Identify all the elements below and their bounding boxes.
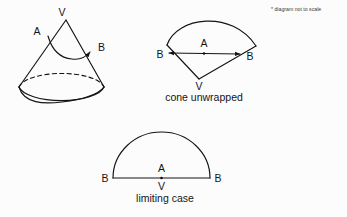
sector-point-a-dot <box>203 52 206 55</box>
cone-label-b: B <box>98 41 105 53</box>
limiting-label-b-right: B <box>214 172 221 184</box>
diagram-figure: V A B A B B V cone unwrapped <box>0 0 347 217</box>
sector-arc <box>167 21 256 46</box>
cone-base-front-arc <box>19 87 104 101</box>
caption-cone-unwrapped: cone unwrapped <box>165 91 243 103</box>
sector-label-a: A <box>200 37 207 49</box>
limiting-label-b-left: B <box>101 172 108 184</box>
diagram-canvas: V A B A B B V cone unwrapped <box>0 0 347 217</box>
sector-label-b-left: B <box>156 48 163 60</box>
diagram-scale-note: * diagram not to scale <box>271 6 321 12</box>
cone-right-slant <box>66 20 104 87</box>
sector-left-radius <box>167 45 199 79</box>
panel-cone-3d: V A B <box>19 6 105 103</box>
cone-label-vertex: V <box>58 6 65 18</box>
limiting-centre-dot <box>160 177 163 180</box>
panel-limiting-case: A V B B limiting case <box>101 132 221 204</box>
cone-base-back-arc <box>19 73 104 87</box>
cone-geodesic-path-a-to-b <box>48 36 90 59</box>
caption-limiting-case: limiting case <box>136 192 194 204</box>
cone-label-a: A <box>33 25 40 37</box>
panel-cone-unwrapped: A B B V cone unwrapped <box>156 21 256 103</box>
limiting-label-vertex: V <box>158 180 165 192</box>
sector-label-b-right: B <box>246 50 253 62</box>
limiting-label-a: A <box>158 162 165 174</box>
